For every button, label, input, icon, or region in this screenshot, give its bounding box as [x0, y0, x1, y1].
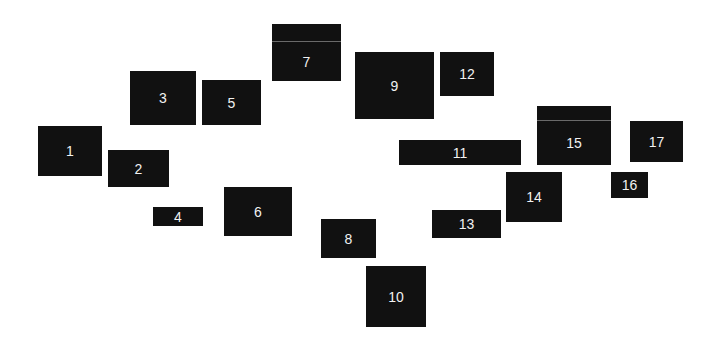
box-label: 11 — [453, 146, 468, 160]
box-2: 2 — [108, 150, 169, 187]
box-6: 6 — [224, 187, 292, 236]
box-label: 9 — [391, 79, 399, 93]
box-16: 16 — [611, 172, 648, 198]
box-label: 13 — [459, 217, 475, 231]
box-label: 16 — [622, 178, 638, 192]
box-9: 9 — [355, 52, 434, 119]
box-label: 7 — [303, 55, 311, 69]
box-label: 12 — [459, 67, 475, 81]
box-15: 15 — [537, 106, 611, 165]
box-divider — [537, 120, 611, 121]
box-label: 14 — [526, 190, 542, 204]
box-8: 8 — [321, 219, 376, 258]
box-label: 2 — [135, 162, 143, 176]
box-13: 13 — [432, 210, 501, 238]
box-label: 5 — [228, 96, 236, 110]
box-label: 1 — [66, 144, 74, 158]
box-label: 8 — [345, 232, 353, 246]
box-label: 15 — [566, 136, 582, 150]
box-divider — [272, 41, 341, 42]
box-label: 3 — [159, 91, 167, 105]
box-7: 7 — [272, 24, 341, 81]
box-3: 3 — [130, 71, 196, 125]
diagram-canvas: 1234567891011121314151617 — [0, 0, 715, 342]
box-11: 11 — [399, 140, 521, 165]
box-4: 4 — [153, 207, 203, 226]
box-label: 6 — [254, 205, 262, 219]
box-12: 12 — [440, 52, 494, 96]
box-10: 10 — [366, 266, 426, 327]
box-label: 10 — [388, 290, 404, 304]
box-label: 17 — [649, 135, 665, 149]
box-5: 5 — [202, 80, 261, 125]
box-label: 4 — [174, 210, 182, 224]
box-17: 17 — [630, 121, 683, 162]
box-14: 14 — [506, 172, 562, 222]
box-1: 1 — [38, 126, 102, 176]
